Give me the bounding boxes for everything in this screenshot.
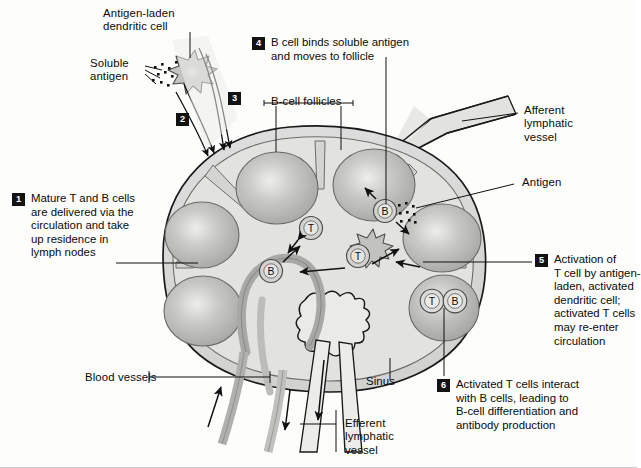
label-blood-vessels: Blood vessels <box>85 371 157 384</box>
step-6: 6 Activated T cells interact with B cell… <box>437 378 579 432</box>
follicle-top-left <box>236 152 318 224</box>
b-cell-in-follicle: B <box>443 289 467 313</box>
follicle-bottom-left <box>164 276 242 346</box>
step-5: 5 Activation of T cell by antigen- laden… <box>535 253 641 348</box>
diagram-canvas: T B B T T B <box>0 0 637 467</box>
svg-text:B: B <box>381 205 388 217</box>
step-4-text: B cell binds soluble antigen and moves t… <box>271 36 409 63</box>
label-b-cell-follicles: B-cell follicles <box>271 95 342 108</box>
step-6-text: Activated T cells interact with B cells,… <box>456 378 579 432</box>
step-5-text: Activation of T cell by antigen- laden, … <box>554 253 641 348</box>
t-cell-with-dendritic: T <box>347 245 370 268</box>
t-cell-in-follicle: T <box>420 289 444 313</box>
svg-text:B: B <box>451 295 458 307</box>
label-soluble-antigen: Soluble antigen <box>90 57 129 84</box>
b-cell-upper-right: B <box>374 200 397 223</box>
step-1: 1 Mature T and B cells are delivered via… <box>12 192 135 260</box>
svg-text:B: B <box>267 265 274 277</box>
step-3-badge: 3 <box>228 92 241 105</box>
svg-text:T: T <box>429 295 436 307</box>
follicle-mid-left <box>165 202 239 268</box>
label-antigen-laden-dendritic-cell: Antigen-laden dendritic cell <box>103 7 175 34</box>
t-cell-left: T <box>300 217 323 240</box>
step-1-text: Mature T and B cells are delivered via t… <box>31 192 135 260</box>
step-1-badge: 1 <box>12 193 25 206</box>
step-6-badge: 6 <box>437 379 450 392</box>
step-2-badge: 2 <box>176 113 189 126</box>
label-antigen: Antigen <box>522 176 561 189</box>
b-cell-left: B <box>260 260 283 283</box>
svg-text:T: T <box>355 250 362 262</box>
svg-text:T: T <box>308 222 315 234</box>
step-5-badge: 5 <box>535 254 548 267</box>
step-4-badge: 4 <box>252 37 265 50</box>
label-afferent-lymphatic-vessel: Afferent lymphatic vessel <box>524 104 573 144</box>
label-efferent-lymphatic-vessel: Efferent lymphatic vessel <box>345 417 394 457</box>
step-4: 4 B cell binds soluble antigen and moves… <box>252 36 409 63</box>
label-sinus: Sinus <box>366 375 395 388</box>
